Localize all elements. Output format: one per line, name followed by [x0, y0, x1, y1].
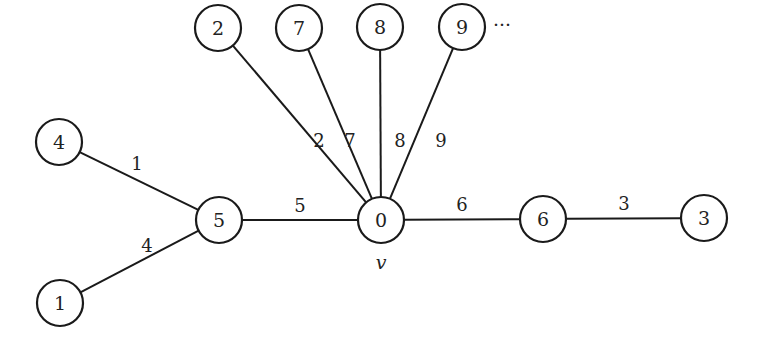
edge-weight-label: 5: [294, 195, 305, 216]
edge-8-0: [380, 50, 381, 197]
node-label: 6: [537, 208, 549, 230]
node-3: 3: [681, 195, 727, 241]
edge-0-6: [404, 219, 520, 220]
edge-weight-label: 2: [313, 130, 324, 151]
root-label-v: v: [376, 251, 387, 273]
edge-1-5: [80, 231, 198, 293]
edge-weight-label: 8: [394, 130, 405, 151]
edge-weight-label: 4: [141, 235, 152, 256]
node-label: 2: [212, 17, 224, 39]
edge-7-0: [308, 49, 372, 199]
node-label: 8: [374, 16, 386, 38]
node-label: 0: [375, 209, 387, 231]
node-9: 9: [439, 4, 485, 50]
edge-weight-label: 3: [618, 193, 629, 214]
node-8: 8: [357, 4, 403, 50]
node-6: 6: [520, 196, 566, 242]
node-label: 1: [54, 292, 66, 314]
node-0: 0: [358, 197, 404, 243]
node-label: 3: [698, 207, 710, 229]
tree-diagram: 145278963 2789450631 ···v: [0, 0, 759, 343]
node-7: 7: [276, 5, 322, 51]
node-5: 5: [196, 197, 242, 243]
node-4: 4: [36, 119, 82, 165]
edge-weight-label: 9: [435, 130, 446, 151]
edge-9-0: [390, 48, 453, 199]
ellipsis-more-nodes: ···: [493, 13, 511, 35]
node-label: 7: [293, 17, 305, 39]
node-2: 2: [195, 5, 241, 51]
node-1: 1: [37, 280, 83, 326]
edge-weight-label: 7: [344, 130, 355, 151]
edge-weight-label: 1: [131, 153, 142, 174]
node-label: 5: [213, 209, 225, 231]
edge-2-0: [233, 46, 366, 203]
edge-6-3: [566, 218, 681, 219]
node-label: 9: [456, 16, 468, 38]
edge-weight-label: 6: [456, 194, 467, 215]
node-label: 4: [53, 131, 65, 153]
